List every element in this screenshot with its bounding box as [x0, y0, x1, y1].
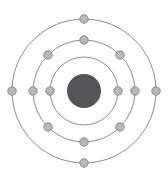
electron	[80, 15, 88, 23]
electron	[8, 87, 16, 95]
electron	[152, 87, 160, 95]
electron	[116, 123, 124, 131]
electron	[131, 87, 139, 95]
electron	[80, 138, 88, 146]
nucleus-group	[67, 74, 101, 108]
electron	[80, 36, 88, 44]
electron	[80, 159, 88, 167]
electron	[44, 51, 52, 59]
electron	[114, 87, 122, 95]
electron	[29, 87, 37, 95]
atom-canvas	[0, 0, 168, 182]
electron	[46, 87, 54, 95]
electron	[116, 51, 124, 59]
bohr-atom-diagram	[0, 0, 168, 182]
electron	[44, 123, 52, 131]
nucleus	[67, 74, 101, 108]
